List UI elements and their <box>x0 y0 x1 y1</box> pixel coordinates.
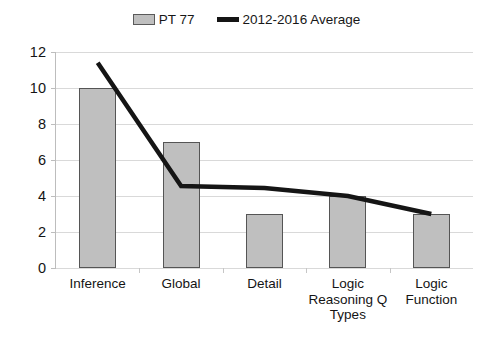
y-axis-tick-label: 4 <box>14 189 46 204</box>
x-axis-tick-mark <box>306 268 307 273</box>
bar-0[interactable] <box>79 88 116 268</box>
x-axis-category-label: Logic Reasoning Q Types <box>306 276 389 323</box>
bar-2[interactable] <box>246 214 283 268</box>
gridline <box>56 160 473 161</box>
gridline <box>56 88 473 89</box>
y-axis-tick-label: 12 <box>14 45 46 60</box>
x-axis-category-label: Detail <box>223 276 306 292</box>
y-axis-tick-label: 8 <box>14 117 46 132</box>
gridline <box>56 268 473 269</box>
bar-line-combo-chart: PT 77 2012-2016 Average 121086420 Infere… <box>0 0 493 350</box>
x-axis-category-label: Logic Function <box>390 276 473 307</box>
gridline <box>56 196 473 197</box>
gridline <box>56 52 473 53</box>
bar-4[interactable] <box>413 214 450 268</box>
bar-3[interactable] <box>329 196 366 268</box>
y-axis-tick-label: 0 <box>14 261 46 276</box>
y-axis-tick-label: 2 <box>14 225 46 240</box>
plot-area <box>56 52 473 268</box>
x-axis-category-label: Global <box>139 276 222 292</box>
x-axis-tick-mark <box>390 268 391 273</box>
x-axis-tick-mark <box>223 268 224 273</box>
bar-1[interactable] <box>163 142 200 268</box>
y-axis-tick-label: 6 <box>14 153 46 168</box>
x-axis-category-label: Inference <box>56 276 139 292</box>
x-axis-tick-mark <box>139 268 140 273</box>
gridline <box>56 124 473 125</box>
y-axis-tick-label: 10 <box>14 81 46 96</box>
